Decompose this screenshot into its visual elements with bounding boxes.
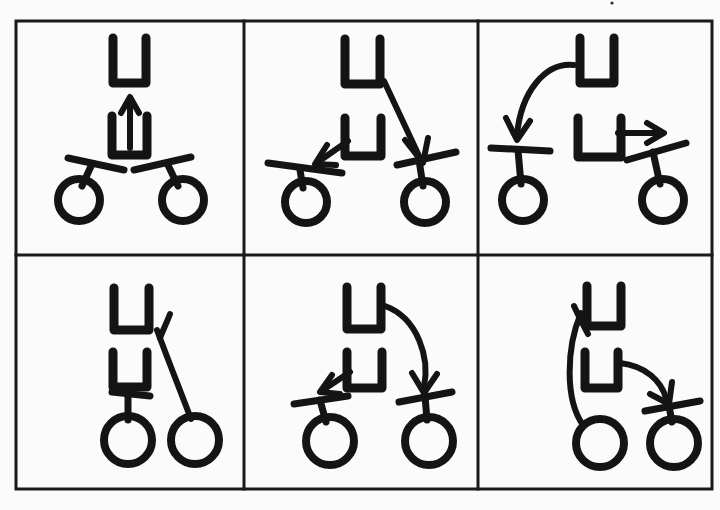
panel-6[interactable]: Panel 6: Two stacked U shapes; a long cu… — [480, 257, 711, 488]
panel-5-hit-area[interactable] — [246, 257, 476, 488]
panel-2[interactable]: Panel 2: Two stacked U shapes; a short a… — [246, 22, 476, 254]
panel-4[interactable]: Panel 4: Two stacked U shapes with no ar… — [17, 257, 243, 488]
diagram-canvas: Panel 1: Two stacked U shapes with an up… — [0, 0, 720, 510]
diagram-svg: Panel 1: Two stacked U shapes with an up… — [0, 0, 720, 510]
panel-4-hit-area[interactable] — [17, 257, 243, 488]
panel-5[interactable]: Panel 5: Two stacked U shapes; a short a… — [246, 257, 476, 488]
panel-3[interactable]: Panel 3: Two stacked U shapes; a large c… — [480, 22, 711, 254]
panel-1[interactable]: Panel 1: Two stacked U shapes with an up… — [17, 22, 243, 254]
scan-speck — [610, 1, 613, 4]
panel-6-hit-area[interactable] — [480, 257, 711, 488]
